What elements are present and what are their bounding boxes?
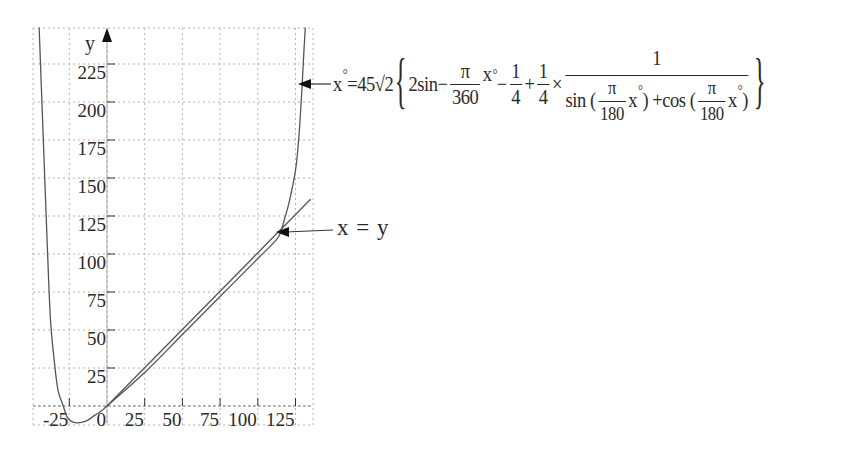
y-tick-label: 200 [78, 100, 107, 121]
line-x-equals-y [107, 199, 311, 406]
pi-over-180: π 180 [698, 78, 725, 123]
y-tick-label: 150 [78, 176, 107, 197]
x-tick-label: -25 [43, 409, 68, 430]
degree-symbol: ° [343, 67, 347, 83]
formula-lhs: x [333, 72, 342, 97]
denominator-180: 180 [698, 101, 725, 123]
minus: − [497, 72, 507, 97]
pi-numerator: π [606, 78, 618, 101]
y-axis-title: y [85, 32, 95, 55]
close-brace: } [753, 49, 765, 111]
minus: − [438, 72, 448, 97]
y-tick-label: 50 [87, 328, 106, 349]
pi-numerator: π [459, 61, 471, 84]
y-tick-label: 125 [78, 214, 107, 235]
numerator-one: 1 [652, 46, 661, 75]
x-tick-label: 75 [200, 409, 219, 430]
y-tick-label: 175 [78, 138, 107, 159]
degree-symbol: ° [738, 83, 742, 99]
pi-over-360: π 360 [450, 61, 480, 108]
one-quarter: 1 4 [509, 61, 521, 108]
numerator: 1 [509, 61, 521, 84]
plus: + [524, 72, 534, 97]
tick-labels: 255075100125150175200225-250255075100125 [43, 62, 295, 430]
open-brace: { [395, 49, 407, 111]
denominator: 4 [537, 84, 549, 108]
y-tick-label: 25 [87, 366, 106, 387]
one-quarter: 1 4 [537, 61, 549, 108]
y-tick-label: 100 [78, 252, 107, 273]
x-tick-label: 125 [266, 409, 295, 430]
degree-symbol: ° [638, 83, 642, 99]
degree-symbol: ° [492, 67, 496, 83]
x-variable: x [728, 88, 737, 113]
y-axis-arrow-icon [102, 28, 112, 42]
axes [33, 28, 313, 425]
pi-over-180: π 180 [598, 78, 625, 123]
pi-numerator: π [706, 78, 718, 101]
numerator: 1 [537, 61, 549, 84]
annotation-arrows [276, 79, 333, 237]
x-equals-y-label: x = y [337, 215, 389, 241]
denominator: 4 [509, 84, 521, 108]
y-tick-label: 225 [78, 62, 107, 83]
x-variable: x [628, 88, 637, 113]
x-variable: x [483, 62, 492, 87]
plus-cos: +cos ( [648, 88, 695, 113]
times: × [552, 72, 562, 97]
x-tick-label: 0 [97, 409, 107, 430]
y-tick-label: 75 [87, 290, 106, 311]
formula-arrow-head [298, 79, 311, 89]
reciprocal-fraction: 1 sin ( π 180 x ° ) +cos ( π 180 x ° ) [566, 46, 748, 123]
denominator-360: 360 [450, 84, 480, 108]
close-paren: ) [742, 88, 748, 113]
x-tick-label: 50 [162, 409, 181, 430]
grid-lines [33, 28, 313, 425]
formula-coefficient: =45√2 [347, 72, 393, 97]
denominator-180: 180 [598, 101, 625, 123]
x-tick-label: 25 [125, 409, 144, 430]
sin-cos-denominator: sin ( π 180 x ° ) +cos ( π 180 x ° ) [566, 75, 748, 123]
two-sin: 2sin [408, 72, 437, 97]
xy-arrow-line [285, 230, 333, 232]
sin-open: sin ( [566, 88, 596, 113]
formula-annotation: x ° =45√2 { 2sin − π 360 x ° − 1 4 + 1 4… [333, 52, 767, 116]
x-tick-label: 100 [228, 409, 257, 430]
